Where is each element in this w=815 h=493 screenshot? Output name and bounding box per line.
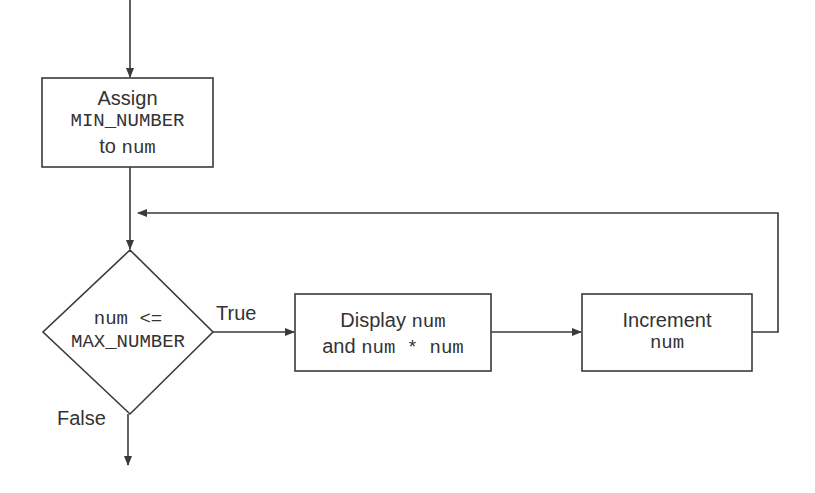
assign-line3-text: to (99, 135, 116, 157)
increment-line1: Increment (582, 308, 752, 332)
condition-line1: num <= (43, 308, 213, 331)
assign-line1: Assign (42, 86, 213, 110)
increment-line2: num (582, 332, 752, 355)
assign-label: Assign MIN_NUMBER to num (42, 86, 213, 160)
condition-label: num <= MAX_NUMBER (43, 308, 213, 354)
flowchart-lines (0, 0, 815, 493)
display-line1-code: num (411, 311, 445, 333)
assign-line2: MIN_NUMBER (42, 110, 213, 133)
condition-line2: MAX_NUMBER (43, 331, 213, 354)
true-label: True (216, 302, 256, 325)
display-line1-text: Display (340, 309, 406, 331)
display-line2-text: and (322, 335, 355, 357)
increment-label: Increment num (582, 308, 752, 356)
assign-line3-code: num (122, 137, 156, 159)
display-label: Display num and num * num (295, 308, 491, 360)
false-label: False (57, 407, 106, 430)
display-line2-code: num * num (361, 337, 464, 359)
